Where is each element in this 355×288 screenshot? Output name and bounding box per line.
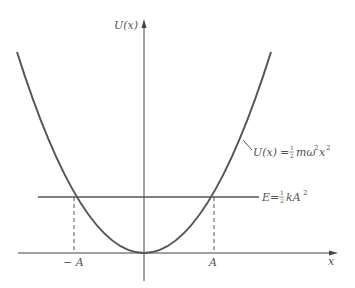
energy-label-lhs: E [261, 191, 270, 204]
curve-label: U(x) = 1 2 mω 2 x 2 [253, 144, 330, 159]
y-axis-arrow-icon [142, 19, 147, 28]
y-axis-label: U(x) [114, 19, 138, 32]
energy-label-rest: kA [286, 191, 301, 204]
curve-label-lhs: U(x) [253, 146, 277, 159]
pos-amplitude-label: A [208, 256, 217, 269]
curve-label-frac-den: 2 [290, 152, 294, 159]
potential-energy-diagram: U(x) x − A A U(x) = 1 2 mω 2 x 2 E = 1 2… [0, 0, 355, 288]
curve-label-eq: = [280, 146, 289, 159]
x-axis-label: x [328, 255, 335, 268]
curve-label-var: x [319, 146, 326, 159]
energy-label-frac-num: 1 [280, 189, 284, 196]
curve-label-sup2: 2 [326, 144, 330, 152]
curve-label-leader [243, 140, 252, 150]
curve-label-sup1: 2 [314, 144, 318, 152]
energy-label-frac-den: 2 [280, 197, 284, 204]
curve-label-rest: mω [296, 146, 315, 159]
energy-label: E = 1 2 kA 2 [261, 189, 307, 204]
energy-label-eq: = [270, 191, 279, 204]
curve-label-frac-num: 1 [290, 144, 294, 151]
neg-amplitude-label: − A [63, 256, 84, 269]
energy-label-sup: 2 [303, 189, 307, 197]
